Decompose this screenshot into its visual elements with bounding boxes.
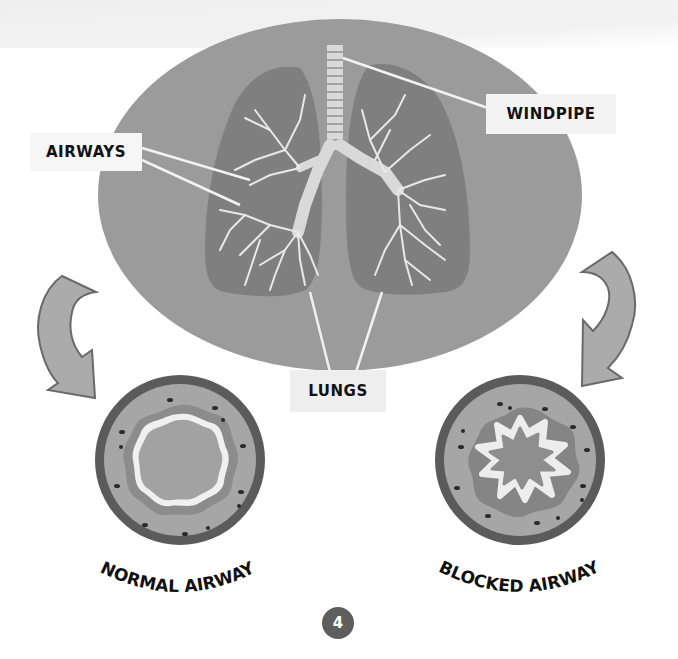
page-number-badge: 4 [322, 607, 354, 639]
blocked-airway-diagram [435, 375, 605, 545]
label-airways: AIRWAYS [30, 133, 142, 171]
windpipe [327, 45, 343, 150]
caption-normal-airway: NORMAL AIRWAY [98, 557, 258, 596]
caption-blocked-airway: BLOCKED AIRWAY [436, 556, 603, 596]
normal-airway-diagram [95, 375, 265, 545]
curved-arrow-right-icon [582, 252, 635, 386]
curved-arrow-left-icon [38, 276, 96, 398]
label-windpipe: WINDPIPE [486, 94, 616, 134]
label-lungs: LUNGS [290, 370, 386, 412]
